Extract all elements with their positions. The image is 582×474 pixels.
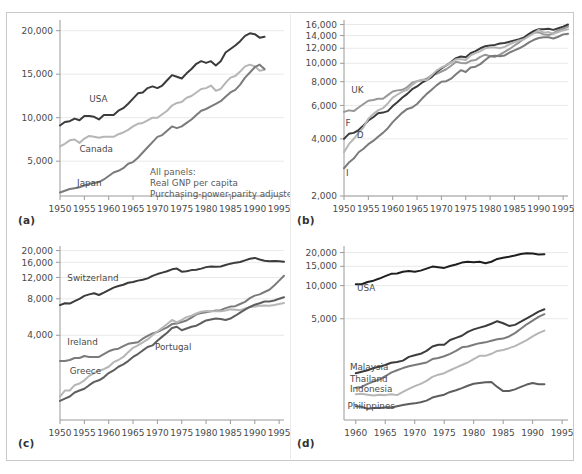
x-tick-label: 1955 (73, 204, 96, 214)
x-tick-label: 1975 (170, 204, 193, 214)
panel-label-c: (c) (18, 437, 34, 449)
series-label: Japan (76, 178, 102, 188)
x-tick-label: 1955 (73, 428, 96, 438)
x-tick-label: 1990 (527, 204, 550, 214)
x-tick-label: 1985 (492, 428, 515, 438)
x-tick-label: 1980 (462, 428, 485, 438)
panel-label-b: (b) (297, 214, 315, 226)
y-tick-label: 6,000 (311, 101, 337, 111)
series-label: Malaysia (350, 362, 388, 372)
chart-panel-a: 5,00010,00015,00020,00019501955196019651… (8, 14, 290, 236)
series-group (344, 25, 568, 169)
x-tick-label: 1995 (551, 428, 574, 438)
y-tick-label: 8,000 (311, 77, 337, 87)
x-tick-label: 1990 (243, 204, 266, 214)
series-label: D (357, 130, 364, 140)
x-tick-label: 1970 (430, 204, 453, 214)
x-tick-label: 1990 (521, 428, 544, 438)
x-tick-label: 1950 (49, 204, 72, 214)
y-tick-label: 5,000 (27, 156, 53, 166)
y-axis-ticks: 4,0008,00012,00016,00020,000 (22, 246, 61, 341)
series-label: I (346, 168, 349, 178)
x-tick-label: 1950 (333, 204, 356, 214)
y-tick-label: 10,000 (306, 281, 338, 291)
x-axis-ticks: 1950195519601965197019751980198519901995 (333, 196, 574, 214)
series-label: Indonesia (350, 384, 393, 394)
chart-svg-d: 5,00010,00015,00020,00019601965197019751… (292, 240, 574, 460)
series-labels: USAMalaysiaThailandIndonesiaPhilippines (348, 283, 396, 411)
series-label: Ireland (67, 337, 97, 347)
x-tick-label: 1965 (122, 204, 145, 214)
x-axis-ticks: 19601965197019751980198519901995 (344, 420, 573, 438)
x-tick-label: 1985 (503, 204, 526, 214)
x-tick-label: 1950 (49, 428, 72, 438)
x-tick-label: 1995 (552, 204, 574, 214)
x-tick-label: 1975 (454, 204, 477, 214)
y-tick-label: 20,000 (22, 246, 54, 256)
x-tick-label: 1985 (219, 204, 242, 214)
y-tick-label: 15,000 (22, 69, 54, 79)
gridlines (344, 253, 568, 319)
chart-panel-d: 5,00010,00015,00020,00019601965197019751… (292, 240, 574, 460)
y-tick-label: 4,000 (27, 330, 53, 340)
figure-container: 5,00010,00015,00020,00019501955196019651… (0, 0, 582, 474)
y-tick-label: 4,000 (311, 134, 337, 144)
series-label: Portugal (155, 342, 191, 352)
series-line (356, 253, 545, 284)
series-label: Thailand (349, 374, 388, 384)
x-tick-label: 1970 (146, 204, 169, 214)
y-axis-ticks: 5,00010,00015,00020,000 (22, 26, 61, 167)
y-tick-label: 12,000 (306, 43, 338, 53)
chart-svg-a: 5,00010,00015,00020,00019501955196019651… (8, 14, 290, 236)
series-line (60, 33, 265, 125)
x-tick-label: 1985 (219, 428, 242, 438)
y-axis-ticks: 2,0004,0006,0008,00010,00012,00014,00016… (306, 20, 345, 201)
y-tick-label: 20,000 (22, 26, 54, 36)
x-tick-label: 1965 (406, 204, 429, 214)
series-label: F (345, 118, 350, 128)
y-tick-label: 12,000 (22, 273, 54, 283)
x-tick-label: 1975 (170, 428, 193, 438)
x-tick-label: 1990 (243, 428, 266, 438)
y-tick-label: 5,000 (311, 314, 337, 324)
figure-note: All panels:Real GNP per capitaPurchasing… (150, 167, 290, 199)
chart-svg-c: 4,0008,00012,00016,00020,000195019551960… (8, 240, 290, 460)
x-tick-label: 1960 (381, 204, 404, 214)
panel-divider (290, 14, 291, 459)
x-tick-label: 1980 (479, 204, 502, 214)
x-tick-label: 1970 (146, 428, 169, 438)
x-tick-label: 1965 (122, 428, 145, 438)
note-line: Real GNP per capita (150, 178, 238, 188)
y-tick-label: 16,000 (306, 20, 338, 30)
panel-label-a: (a) (18, 214, 35, 226)
x-tick-label: 1960 (97, 428, 120, 438)
series-label: UK (351, 85, 363, 95)
y-tick-label: 8,000 (27, 294, 53, 304)
y-tick-label: 10,000 (306, 58, 338, 68)
x-tick-label: 1960 (97, 204, 120, 214)
panel-label-d: (d) (297, 437, 315, 449)
series-label: USA (357, 283, 375, 293)
chart-panel-c: 4,0008,00012,00016,00020,000195019551960… (8, 240, 290, 460)
axes (344, 20, 568, 196)
x-tick-label: 1965 (374, 428, 397, 438)
series-label: Switzerland (67, 273, 118, 283)
x-tick-label: 1980 (195, 204, 218, 214)
x-axis-ticks: 1950195519601965197019751980198519901995 (49, 420, 290, 438)
x-tick-label: 1970 (403, 428, 426, 438)
series-label: USA (89, 94, 107, 104)
chart-svg-b: 2,0004,0006,0008,00010,00012,00014,00016… (292, 14, 574, 236)
series-line (344, 34, 568, 168)
y-axis-ticks: 5,00010,00015,00020,000 (306, 248, 345, 324)
note-line: All panels: (150, 167, 196, 177)
x-tick-label: 1980 (195, 428, 218, 438)
y-tick-label: 20,000 (306, 248, 338, 258)
y-tick-label: 15,000 (306, 261, 338, 271)
x-tick-label: 1995 (268, 428, 290, 438)
x-tick-label: 1995 (268, 204, 290, 214)
series-label: Philippines (348, 401, 396, 411)
y-tick-label: 2,000 (311, 191, 337, 201)
series-label: Greece (70, 366, 101, 376)
note-line: Purchasing-power-parity adjusted (150, 189, 290, 199)
series-label: Canada (79, 144, 112, 154)
